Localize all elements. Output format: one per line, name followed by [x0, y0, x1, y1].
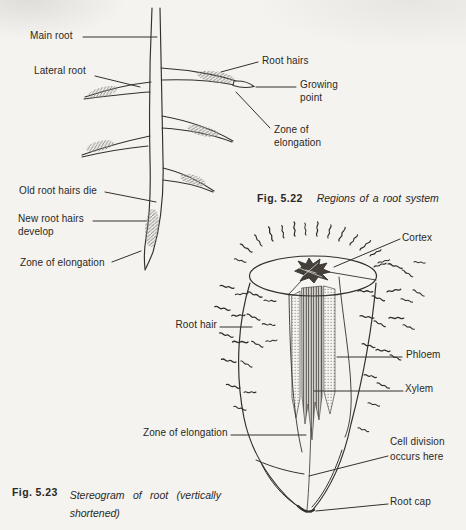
- label-root-hair: Root hair: [162, 319, 217, 332]
- leader-lateral-root: [95, 76, 140, 87]
- stele-columns: [292, 286, 335, 440]
- figure-5-23-caption: Fig. 5.23 Stereogram of root (vertically…: [12, 486, 275, 522]
- figure-5-22-caption: Fig. 5.22 Regions of a root system: [257, 192, 439, 204]
- leader-zone-elongation-right: [236, 92, 270, 128]
- phloem-column-left: [292, 291, 300, 418]
- figure-5-22-title: Regions of a root system: [317, 192, 439, 204]
- label-new-root-hairs-develop: New root hairs develop: [18, 213, 84, 238]
- leader-root-cap: [316, 504, 388, 511]
- label-zone-of-elongation-main: Zone of elongation: [20, 257, 105, 270]
- label-zone-of-elongation-tip: Zone of elongation: [143, 427, 228, 440]
- leader-cell-division: [309, 456, 388, 476]
- leader-zone-elongation-left: [112, 251, 141, 262]
- label-xylem: Xylem: [405, 383, 433, 396]
- growing-point-tip: [233, 81, 254, 87]
- label-lateral-root: Lateral root: [34, 65, 86, 78]
- label-cortex: Cortex: [402, 232, 432, 245]
- xylem-column: [302, 286, 322, 440]
- figure-5-22-number: Fig. 5.22: [257, 192, 303, 204]
- label-phloem: Phloem: [406, 349, 441, 362]
- fig-5-22-root-drawing: [82, 8, 296, 270]
- book-page: Main root Lateral root Root hairs Growin…: [0, 0, 466, 530]
- label-growing-point: Growing point: [300, 79, 338, 104]
- label-zone-of-elongation-upper: Zone of elongation: [274, 124, 321, 149]
- leader-old-root-hairs: [105, 192, 156, 202]
- phloem-column-right: [324, 286, 335, 414]
- stele-cutaway: [289, 258, 376, 510]
- label-root-cap: Root cap: [390, 496, 431, 509]
- root-axis-line: [307, 428, 311, 510]
- leader-root-hairs: [221, 62, 258, 72]
- label-cell-division-occurs-here: Cell division occurs here: [390, 434, 445, 464]
- fig-5-23-root-tip-drawing: [215, 222, 425, 512]
- label-root-hairs: Root hairs: [262, 55, 309, 68]
- figure-5-23-title: Stereogram of root (vertically shortened…: [70, 486, 275, 522]
- label-old-root-hairs-die: Old root hairs die: [19, 185, 97, 198]
- label-main-root: Main root: [30, 30, 73, 43]
- figure-5-23-number: Fig. 5.23: [12, 486, 58, 498]
